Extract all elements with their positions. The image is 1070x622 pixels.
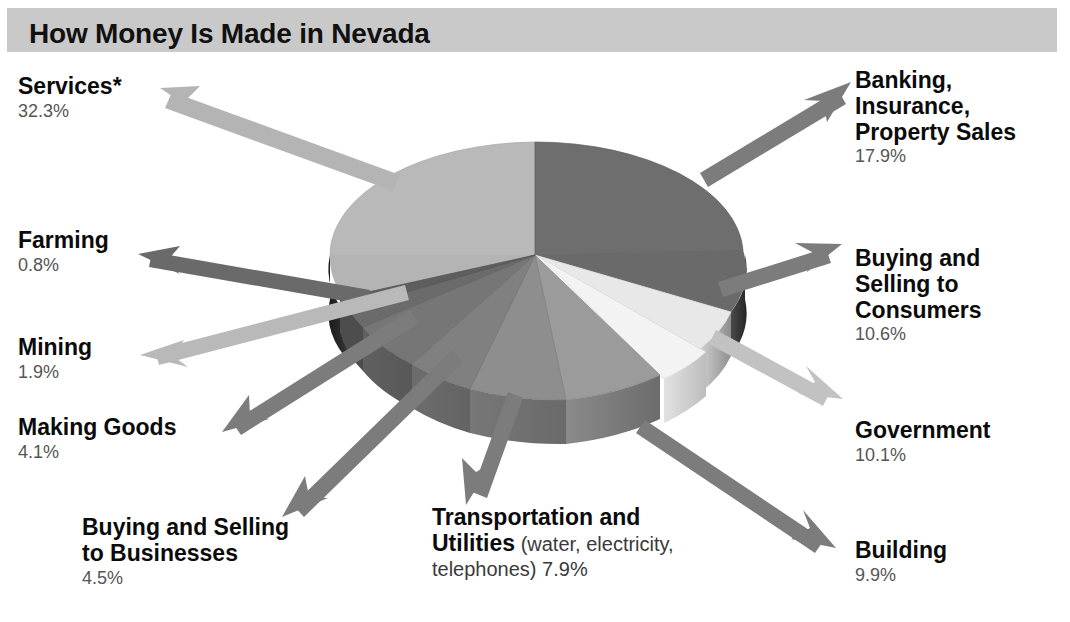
label-government: Government 10.1%: [855, 418, 1055, 466]
label-buying-businesses-name: Buying and Selling to Businesses: [82, 515, 372, 567]
label-buying-consumers-name: Buying and Selling to Consumers: [855, 246, 1055, 323]
label-farming-name: Farming: [18, 228, 218, 254]
label-buying-businesses: Buying and Selling to Businesses 4.5%: [82, 515, 372, 589]
label-making-goods-pct: 4.1%: [18, 442, 258, 464]
label-making-goods-name: Making Goods: [18, 415, 258, 441]
label-mining-name: Mining: [18, 335, 218, 361]
label-mining: Mining 1.9%: [18, 335, 218, 383]
arrow-government: [709, 330, 843, 406]
arrow-buying-consumers: [718, 243, 842, 297]
label-buying-consumers: Buying and Selling to Consumers 10.6%: [855, 246, 1055, 346]
label-farming: Farming 0.8%: [18, 228, 218, 276]
label-farming-pct: 0.8%: [18, 255, 218, 277]
label-government-name: Government: [855, 418, 1055, 444]
label-services-name: Services*: [18, 74, 228, 100]
arrow-transportation: [462, 392, 523, 505]
label-buying-consumers-pct: 10.6%: [855, 324, 1055, 346]
label-banking-name: Banking, Insurance, Property Sales: [855, 68, 1070, 145]
arrow-banking: [700, 82, 851, 187]
label-services-pct: 32.3%: [18, 101, 228, 123]
label-buying-businesses-pct: 4.5%: [82, 568, 372, 590]
pie-chart: Services* 32.3% Farming 0.8% Mining 1.9%…: [0, 0, 1070, 622]
label-building-name: Building: [855, 538, 1055, 564]
label-transportation: Transportation and Utilities (water, ele…: [432, 505, 762, 581]
label-government-pct: 10.1%: [855, 445, 1055, 467]
label-banking: Banking, Insurance, Property Sales 17.9%: [855, 68, 1070, 168]
label-mining-pct: 1.9%: [18, 362, 218, 384]
label-banking-pct: 17.9%: [855, 146, 1070, 168]
label-making-goods: Making Goods 4.1%: [18, 415, 258, 463]
chart-page: How Money Is Made in Nevada: [0, 0, 1070, 622]
label-building: Building 9.9%: [855, 538, 1055, 586]
label-building-pct: 9.9%: [855, 565, 1055, 587]
label-services: Services* 32.3%: [18, 74, 228, 122]
label-transportation-pct: 7.9%: [542, 558, 588, 580]
